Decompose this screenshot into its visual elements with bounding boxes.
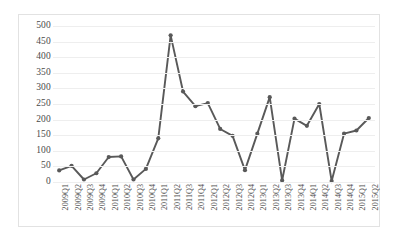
data-point-marker	[156, 136, 160, 140]
x-axis-tick-label: 2014Q2	[322, 184, 330, 210]
y-axis-tick-label: 300	[36, 84, 51, 94]
x-axis-tick-label: 2010Q4	[149, 184, 157, 210]
x-axis-tick-label: 2012Q2	[223, 184, 231, 210]
data-point-marker	[94, 171, 98, 175]
gridline	[53, 135, 375, 136]
gridline	[53, 42, 375, 43]
y-axis: 500450400350300250200150100500	[23, 26, 51, 182]
data-point-marker	[169, 33, 173, 37]
x-axis-tick-label: 2013Q3	[285, 184, 293, 210]
x-axis-tick-label: 2014Q3	[335, 184, 343, 210]
data-point-marker	[268, 95, 272, 99]
chart-plot-wrapper: 500450400350300250200150100500 2009Q1200…	[19, 15, 379, 226]
x-axis-tick-label: 2015Q2	[372, 184, 380, 210]
data-point-marker	[243, 168, 247, 172]
y-axis-tick-label: 250	[36, 99, 51, 109]
gridline	[53, 151, 375, 152]
y-axis-tick-label: 150	[36, 130, 51, 140]
x-axis-tick-label: 2012Q3	[236, 184, 244, 210]
data-point-marker	[305, 124, 309, 128]
x-axis-tick-label: 2009Q4	[99, 184, 107, 210]
x-axis-tick-label: 2010Q1	[112, 184, 120, 210]
x-axis-tick-label: 2013Q2	[273, 184, 281, 210]
x-axis-tick-label: 2011Q4	[198, 184, 206, 210]
gridline	[53, 88, 375, 89]
gridline	[53, 26, 375, 27]
data-point-marker	[107, 155, 111, 159]
data-point-marker	[131, 177, 135, 181]
x-axis-tick-label: 2014Q4	[347, 184, 355, 210]
chart-container: 500450400350300250200150100500 2009Q1200…	[18, 14, 380, 227]
data-point-marker	[119, 154, 123, 158]
data-point-marker	[218, 127, 222, 131]
data-point-marker	[82, 177, 86, 181]
x-axis-tick-label: 2011Q1	[161, 184, 169, 210]
gridline	[53, 182, 375, 183]
data-point-marker	[354, 128, 358, 132]
x-axis-tick-label: 2011Q2	[174, 184, 182, 210]
gridline	[53, 104, 375, 105]
data-point-marker	[144, 167, 148, 171]
x-axis-tick-label: 2014Q1	[310, 184, 318, 210]
x-axis: 2009Q12009Q22009Q32009Q42010Q12010Q22010…	[53, 184, 375, 224]
x-axis-tick-label: 2010Q2	[124, 184, 132, 210]
gridline	[53, 120, 375, 121]
x-axis-tick-label: 2013Q4	[298, 184, 306, 210]
y-axis-tick-label: 450	[36, 37, 51, 47]
x-axis-tick-label: 2009Q1	[62, 184, 70, 210]
y-axis-tick-label: 50	[41, 162, 51, 172]
data-point-marker	[181, 89, 185, 93]
y-axis-tick-label: 500	[36, 21, 51, 31]
y-axis-tick-label: 0	[46, 177, 51, 187]
gridline	[53, 73, 375, 74]
gridline	[53, 57, 375, 58]
data-point-marker	[57, 168, 61, 172]
x-axis-tick-label: 2009Q3	[87, 184, 95, 210]
y-axis-tick-label: 400	[36, 52, 51, 62]
y-axis-tick-label: 200	[36, 115, 51, 125]
y-axis-tick-label: 350	[36, 68, 51, 78]
y-axis-tick-label: 100	[36, 146, 51, 156]
x-axis-tick-label: 2012Q4	[248, 184, 256, 210]
x-axis-tick-label: 2010Q3	[137, 184, 145, 210]
x-axis-tick-label: 2015Q1	[359, 184, 367, 210]
gridline	[53, 166, 375, 167]
x-axis-tick-label: 2011Q3	[186, 184, 194, 210]
x-axis-tick-label: 2013Q1	[260, 184, 268, 210]
x-axis-tick-label: 2009Q2	[75, 184, 83, 210]
plot-area	[53, 26, 375, 182]
x-axis-tick-label: 2012Q1	[211, 184, 219, 210]
